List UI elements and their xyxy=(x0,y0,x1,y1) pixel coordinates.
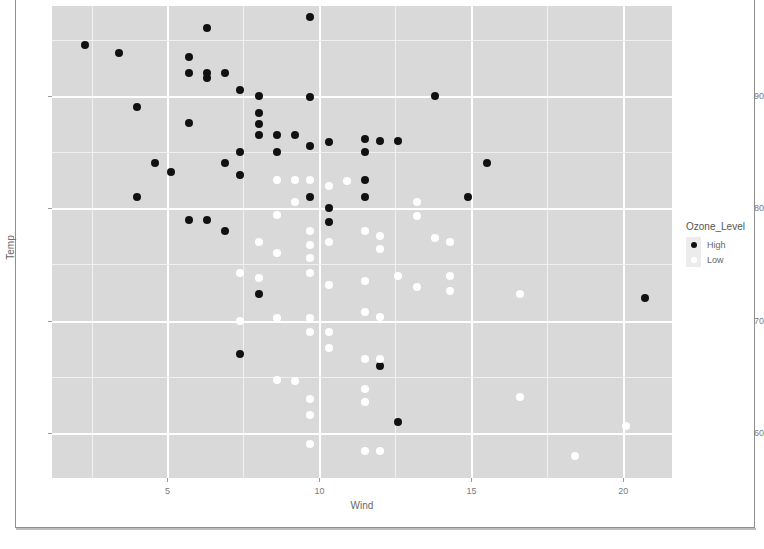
data-point-low xyxy=(413,212,421,220)
gridline-vertical xyxy=(319,6,321,478)
data-point-low xyxy=(273,376,281,384)
data-point-high xyxy=(255,290,263,298)
x-axis-title: Wind xyxy=(52,500,672,511)
data-point-high xyxy=(361,193,369,201)
data-point-high xyxy=(203,216,211,224)
data-point-low xyxy=(325,182,333,190)
data-point-high xyxy=(325,138,333,146)
data-point-low xyxy=(255,238,263,246)
data-point-high xyxy=(133,193,141,201)
data-point-low xyxy=(306,411,314,419)
gridline-horizontal xyxy=(52,96,672,98)
data-point-low xyxy=(571,452,579,460)
gridline-horizontal xyxy=(52,377,672,378)
data-point-low xyxy=(361,385,369,393)
data-point-high xyxy=(273,131,281,139)
data-point-high xyxy=(255,120,263,128)
data-point-low xyxy=(306,176,314,184)
data-point-low xyxy=(361,398,369,406)
x-tick-label: 5 xyxy=(165,486,170,496)
data-point-low xyxy=(306,328,314,336)
data-point-high xyxy=(325,204,333,212)
data-point-high xyxy=(115,49,123,57)
data-point-low xyxy=(273,211,281,219)
data-point-high xyxy=(81,41,89,49)
y-axis-title: Temp xyxy=(5,235,16,259)
data-point-high xyxy=(185,53,193,61)
data-point-low xyxy=(325,281,333,289)
gridline-vertical xyxy=(92,6,93,478)
data-point-low xyxy=(306,241,314,249)
plot-panel xyxy=(52,6,672,478)
data-point-high xyxy=(394,418,402,426)
data-point-high xyxy=(325,218,333,226)
gridline-horizontal xyxy=(52,208,672,210)
data-point-high xyxy=(361,135,369,143)
legend-title: Ozone_Level xyxy=(686,221,756,232)
data-point-low xyxy=(325,344,333,352)
x-tick-label: 20 xyxy=(618,486,628,496)
y-tick-mark xyxy=(48,321,52,322)
data-point-high xyxy=(306,93,314,101)
data-point-low xyxy=(306,227,314,235)
data-point-low xyxy=(306,269,314,277)
data-point-high xyxy=(641,294,649,302)
data-point-high xyxy=(133,103,141,111)
data-point-low xyxy=(622,422,630,430)
gridline-vertical xyxy=(243,6,244,478)
data-point-low xyxy=(516,290,524,298)
legend-dot-high-icon xyxy=(691,242,697,248)
data-point-high xyxy=(255,109,263,117)
legend-item-high[interactable]: High xyxy=(686,237,756,252)
y-tick-mark xyxy=(48,208,52,209)
data-point-high xyxy=(273,148,281,156)
data-point-high xyxy=(483,159,491,167)
data-point-high xyxy=(306,193,314,201)
data-point-high xyxy=(361,148,369,156)
data-point-high xyxy=(255,92,263,100)
data-point-high xyxy=(167,168,175,176)
screenshot-root: 60708090 5101520 Temp Wind Ozone_Level H… xyxy=(0,0,764,549)
data-point-high xyxy=(394,137,402,145)
data-point-low xyxy=(361,308,369,316)
data-point-low xyxy=(394,272,402,280)
data-point-low xyxy=(306,440,314,448)
legend-dot-low-icon xyxy=(691,257,697,263)
data-point-high xyxy=(221,159,229,167)
data-point-low xyxy=(516,393,524,401)
data-point-low xyxy=(446,287,454,295)
data-point-high xyxy=(255,131,263,139)
data-point-low xyxy=(413,283,421,291)
data-point-low xyxy=(325,328,333,336)
data-point-high xyxy=(221,69,229,77)
data-point-low xyxy=(376,447,384,455)
legend-label-high: High xyxy=(707,240,726,250)
data-point-low xyxy=(376,245,384,253)
data-point-high xyxy=(221,227,229,235)
data-point-high xyxy=(361,176,369,184)
data-point-high xyxy=(185,216,193,224)
x-tick-label: 10 xyxy=(314,486,324,496)
gridline-horizontal xyxy=(52,433,672,435)
data-point-high xyxy=(236,171,244,179)
data-point-low xyxy=(361,277,369,285)
data-point-low xyxy=(361,355,369,363)
data-point-low xyxy=(291,198,299,206)
x-tick-mark xyxy=(167,478,168,482)
legend-key-low xyxy=(686,252,701,267)
data-point-low xyxy=(431,234,439,242)
data-point-low xyxy=(325,238,333,246)
legend-item-low[interactable]: Low xyxy=(686,252,756,267)
data-point-low xyxy=(376,232,384,240)
gridline-vertical xyxy=(547,6,548,478)
x-tick-label: 15 xyxy=(466,486,476,496)
data-point-low xyxy=(413,198,421,206)
data-point-low xyxy=(273,249,281,257)
data-point-high xyxy=(203,24,211,32)
y-tick-label: 80 xyxy=(720,203,764,213)
data-point-low xyxy=(376,355,384,363)
gridline-vertical xyxy=(623,6,625,478)
y-tick-mark xyxy=(48,433,52,434)
scatter-plot-figure: 60708090 5101520 Temp Wind Ozone_Level H… xyxy=(0,0,764,549)
data-point-low xyxy=(255,274,263,282)
